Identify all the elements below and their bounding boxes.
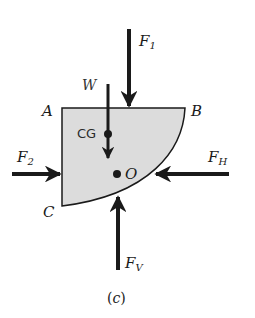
point-b-label: B	[191, 104, 202, 119]
force-f2-label: F2	[17, 150, 34, 167]
point-c-label: C	[43, 205, 54, 220]
cg-label: CG	[77, 127, 96, 140]
point-a-label: A	[42, 104, 53, 119]
weight-label: W	[82, 78, 96, 92]
o-point	[113, 170, 121, 178]
figure-caption: (c)	[107, 291, 126, 305]
force-fh-label: FH	[208, 150, 227, 167]
force-f1-label: F1	[139, 34, 156, 51]
cg-point	[104, 130, 112, 138]
force-fv-label: FV	[125, 256, 143, 273]
body-shape	[62, 108, 185, 206]
point-o-label: O	[125, 167, 137, 182]
